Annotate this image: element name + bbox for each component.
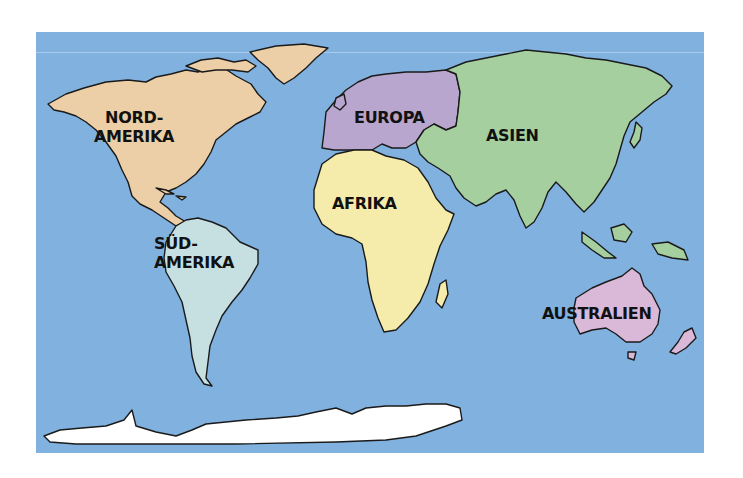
japan-shape (630, 122, 642, 148)
indonesia-shape (582, 224, 688, 260)
tasmania-shape (628, 352, 636, 360)
world-map: NORD- AMERIKA SÜD- AMERIKA EUROPA ASIEN … (36, 32, 704, 453)
antarctica-shape (44, 404, 462, 444)
label-europe: EUROPA (354, 108, 425, 127)
label-asia: ASIEN (486, 126, 539, 145)
new-zealand-shape (670, 328, 696, 354)
label-australia: AUSTRALIEN (542, 304, 652, 323)
continents-svg (36, 32, 704, 453)
africa-shape (314, 150, 454, 332)
north-america-shape (48, 67, 266, 226)
label-south-america: SÜD- AMERIKA (154, 234, 234, 272)
madagascar-shape (436, 280, 448, 308)
label-north-america: NORD- AMERIKA (94, 108, 174, 146)
arctic-islands-shape (186, 58, 256, 72)
label-africa: AFRIKA (332, 194, 397, 213)
greenland-shape (250, 44, 328, 84)
